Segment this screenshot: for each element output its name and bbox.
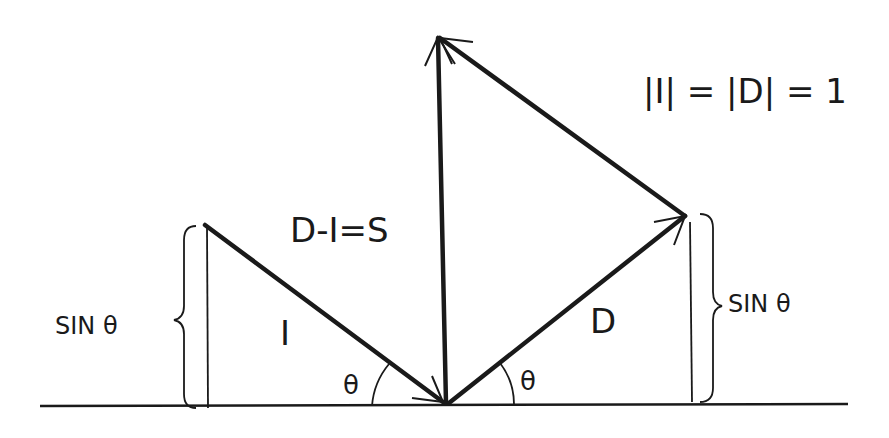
vector-D-arrow xyxy=(449,216,685,403)
equation-main-label: D-I=S xyxy=(290,210,389,250)
vector-minus-I-arrow xyxy=(440,38,685,216)
left-height-line xyxy=(207,226,208,408)
norm-equation-label: |I| = |D| = 1 xyxy=(643,71,847,111)
right-height-line xyxy=(690,222,692,402)
sin-theta-right-label: SIN θ xyxy=(728,290,791,318)
theta-arc-left xyxy=(372,364,389,406)
theta-arc-right xyxy=(500,363,514,404)
theta-right-label: θ xyxy=(520,366,536,396)
vector-I-label: I xyxy=(280,313,290,353)
right-brace xyxy=(700,214,722,402)
theta-left-label: θ xyxy=(343,370,359,400)
vector-D-label: D xyxy=(590,301,616,341)
left-brace xyxy=(174,226,196,408)
sin-theta-left-label: SIN θ xyxy=(55,312,118,340)
vector-S-arrow xyxy=(425,37,455,403)
reflection-vector-diagram: D-I=S |I| = |D| = 1 I D SIN θ SIN θ θ θ xyxy=(0,0,889,438)
vector-I-arrow xyxy=(205,225,443,402)
surface-line xyxy=(40,404,848,406)
